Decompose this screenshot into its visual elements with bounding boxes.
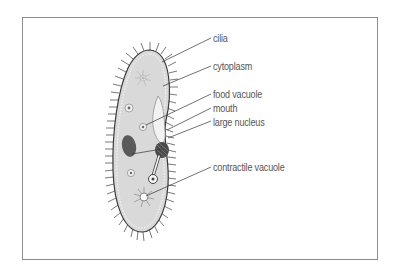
paramecium-illustration <box>0 0 400 276</box>
label-cytoplasm: cytoplasm <box>213 60 252 72</box>
label-contractile-vacuole: contractile vacuole <box>213 161 285 173</box>
label-food-vacuole: food vacuole <box>213 88 262 100</box>
label-cilia: cilia <box>213 32 228 44</box>
label-large-nucleus: large nucleus <box>213 116 264 128</box>
label-mouth: mouth <box>213 102 237 114</box>
